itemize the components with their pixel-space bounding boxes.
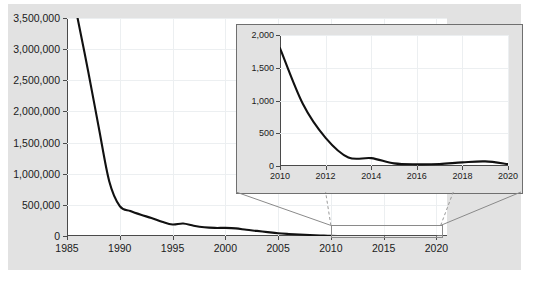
main-y-tick-label: 2,000,000 xyxy=(13,105,60,117)
main-y-tick-label: 3,000,000 xyxy=(13,43,60,55)
chart-figure: 0500,0001,000,0001,500,0002,000,0002,500… xyxy=(0,0,537,283)
main-x-tick-label: 2005 xyxy=(266,242,289,254)
inset-x-tick-label: 2018 xyxy=(452,171,472,181)
inset-x-tick-label: 2010 xyxy=(270,171,290,181)
main-y-tick xyxy=(63,80,67,81)
inset-y-tick xyxy=(276,35,280,36)
main-x-tick xyxy=(173,236,174,240)
inset-y-tick-label: 1,500 xyxy=(251,63,274,73)
inset-gridline-v xyxy=(508,35,509,166)
inset-x-tick xyxy=(326,166,327,170)
main-gridline-h xyxy=(67,205,447,206)
inset-chart-panel: 05001,0001,5002,000201020122014201620182… xyxy=(236,24,523,194)
inset-x-tick-label: 2020 xyxy=(498,171,518,181)
inset-x-tick-label: 2012 xyxy=(316,171,336,181)
main-y-tick xyxy=(63,205,67,206)
main-gridline-v xyxy=(173,18,174,236)
inset-y-tick xyxy=(276,101,280,102)
main-y-tick xyxy=(63,49,67,50)
main-x-tick-label: 2015 xyxy=(372,242,395,254)
main-x-axis xyxy=(67,235,447,236)
main-y-tick-label: 1,500,000 xyxy=(13,137,60,149)
main-x-tick-label: 1995 xyxy=(161,242,184,254)
inset-gridline-h xyxy=(280,35,508,36)
inset-x-tick-label: 2014 xyxy=(361,171,381,181)
inset-chart-plot-area: 05001,0001,5002,000201020122014201620182… xyxy=(280,35,508,166)
inset-x-tick-label: 2016 xyxy=(407,171,427,181)
inset-gridline-v xyxy=(462,35,463,166)
main-y-tick xyxy=(63,174,67,175)
inset-gridline-v xyxy=(326,35,327,166)
inset-gridline-v xyxy=(417,35,418,166)
main-gridline-h xyxy=(67,18,447,19)
inset-x-tick xyxy=(462,166,463,170)
inset-gridline-h xyxy=(280,101,508,102)
main-x-tick xyxy=(384,236,385,240)
inset-y-tick-label: 500 xyxy=(259,128,274,138)
inset-gridline-v xyxy=(371,35,372,166)
main-y-tick-label: 2,500,000 xyxy=(13,74,60,86)
main-x-tick xyxy=(120,236,121,240)
inset-gridline-h xyxy=(280,133,508,134)
inset-y-tick-label: 0 xyxy=(269,161,274,171)
main-x-tick xyxy=(436,236,437,240)
main-x-tick xyxy=(225,236,226,240)
inset-gridline-h xyxy=(280,68,508,69)
inset-y-tick xyxy=(276,133,280,134)
main-y-tick-label: 3,500,000 xyxy=(13,12,60,24)
inset-y-tick-label: 2,000 xyxy=(251,30,274,40)
main-y-tick xyxy=(63,18,67,19)
main-y-tick xyxy=(63,111,67,112)
main-x-tick-label: 1990 xyxy=(108,242,131,254)
main-y-axis xyxy=(67,18,68,236)
main-y-tick-label: 1,000,000 xyxy=(13,168,60,180)
inset-x-tick xyxy=(508,166,509,170)
inset-x-axis xyxy=(280,165,508,166)
main-x-tick-label: 2000 xyxy=(214,242,237,254)
main-x-tick xyxy=(331,236,332,240)
main-y-tick-label: 500,000 xyxy=(22,199,60,211)
main-y-tick xyxy=(63,143,67,144)
main-gridline-v xyxy=(225,18,226,236)
inset-x-tick xyxy=(417,166,418,170)
main-gridline-v xyxy=(120,18,121,236)
main-x-tick-label: 2020 xyxy=(425,242,448,254)
main-x-tick xyxy=(278,236,279,240)
main-x-tick-label: 2010 xyxy=(319,242,342,254)
inset-x-tick xyxy=(280,166,281,170)
inset-y-tick xyxy=(276,68,280,69)
main-y-tick-label: 0 xyxy=(54,230,60,242)
main-x-tick-label: 1985 xyxy=(55,242,78,254)
main-x-tick xyxy=(67,236,68,240)
inset-y-tick-label: 1,000 xyxy=(251,96,274,106)
inset-x-tick xyxy=(371,166,372,170)
